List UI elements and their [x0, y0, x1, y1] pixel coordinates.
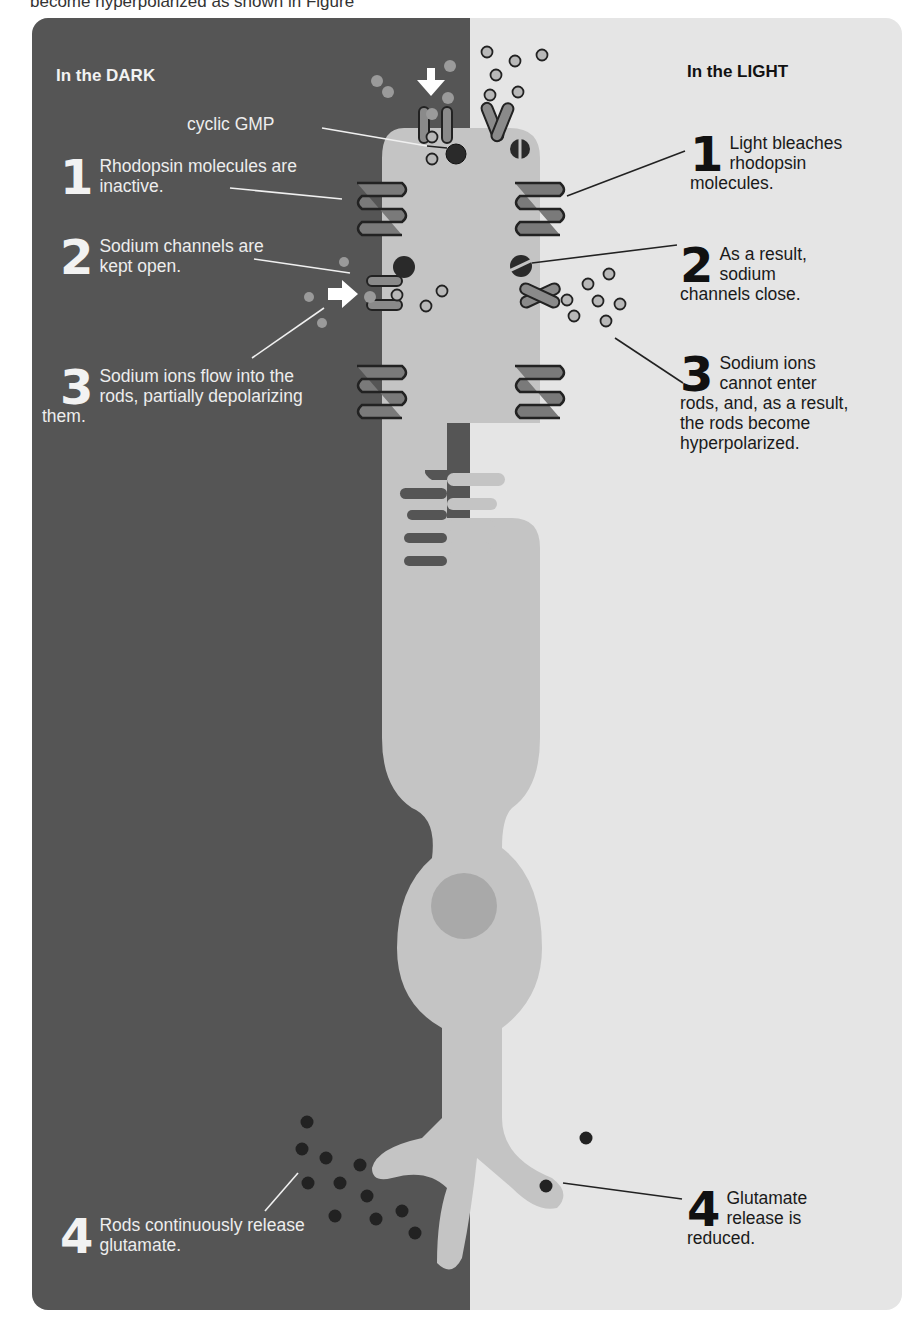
glutamate-dark	[296, 1116, 422, 1240]
step-text: Sodium channels are kept open.	[99, 236, 263, 276]
light-step-2: 2 As a result, sodium channels close.	[680, 244, 845, 304]
step-number: 3	[60, 368, 93, 406]
right-arrow-icon	[328, 280, 358, 308]
light-step-3: 3 Sodium ions cannot enter rods, and, as…	[680, 353, 855, 453]
step-text: Rhodopsin molecules are inactive.	[99, 156, 296, 196]
step-number: 3	[680, 355, 713, 393]
rhodopsin-light-2	[515, 366, 564, 418]
rod-cell-illustration	[32, 18, 902, 1310]
light-heading: In the LIGHT	[687, 62, 788, 82]
dark-step-3: 3 Sodium ions flow into the rods, partia…	[42, 366, 327, 426]
down-arrow-icon	[417, 68, 445, 96]
dark-step-1: 1 Rhodopsin molecules are inactive.	[60, 156, 300, 196]
step-text: Rods continuously release glutamate.	[99, 1215, 304, 1255]
step-number: 4	[687, 1190, 720, 1228]
dark-heading: In the DARK	[56, 66, 155, 86]
dark-step-4: 4 Rods continuously release glutamate.	[60, 1215, 310, 1255]
step-number: 1	[690, 135, 723, 173]
light-step-1: 1 Light bleaches rhodopsin molecules.	[690, 133, 890, 193]
step-number: 1	[60, 158, 93, 196]
step-number: 2	[680, 246, 713, 284]
step-number: 4	[60, 1217, 93, 1255]
rhodopsin-light-1	[515, 183, 564, 235]
cgmp-dark-mid	[393, 256, 415, 278]
diagram-panel: In the DARK In the LIGHT cyclic GMP 1 Rh…	[32, 18, 902, 1310]
light-step-4: 4 Glutamate release is reduced.	[687, 1188, 827, 1248]
cyclic-gmp-label: cyclic GMP	[187, 114, 275, 134]
cgmp-dark-top	[446, 144, 466, 164]
page-caption: become hyperpolarized as shown in Figure	[30, 0, 354, 12]
step-number: 2	[60, 238, 93, 276]
dark-step-2: 2 Sodium channels are kept open.	[60, 236, 290, 276]
nucleus	[431, 873, 497, 939]
